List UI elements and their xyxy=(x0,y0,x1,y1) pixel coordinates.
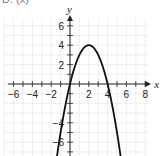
x-tick-label: −6 xyxy=(8,89,20,100)
x-tick-label: −2 xyxy=(45,89,57,100)
y-tick-label: 4 xyxy=(58,40,64,51)
y-axis-label: y xyxy=(66,3,72,15)
parabola-graph: −6−4−22468642−4−6xy xyxy=(0,0,163,156)
x-axis-label: x xyxy=(153,78,159,90)
x-tick-label: 2 xyxy=(86,89,92,100)
x-tick-label: 6 xyxy=(124,89,130,100)
y-axis-arrow-icon xyxy=(67,15,73,21)
y-tick-label: 6 xyxy=(58,21,64,32)
grid xyxy=(4,18,148,156)
tick-labels: −6−4−22468642−4−6xy xyxy=(8,3,159,148)
x-tick-label: −4 xyxy=(27,89,39,100)
y-tick-label: 2 xyxy=(58,60,64,71)
x-tick-label: 8 xyxy=(142,89,148,100)
x-axis-arrow-icon xyxy=(145,81,151,87)
